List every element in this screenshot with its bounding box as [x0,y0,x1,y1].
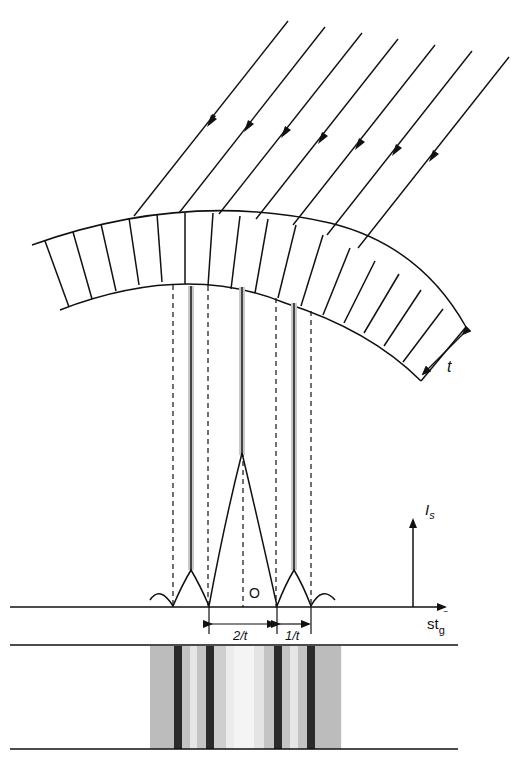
ray-4 [256,39,398,219]
ray-5 [293,45,435,225]
intensity-curve [150,453,335,606]
x-axis-bar: ‾ [443,611,448,622]
ray-2 [179,27,325,213]
diagram-canvas: t Is O stg ‾ 2/t 1/t [0,0,518,762]
origin-label: O [249,585,260,601]
ray-6 [327,51,472,235]
foil-top-surface [32,211,466,327]
thickness-label: t [447,358,452,375]
arrow-down-icon [281,126,291,138]
arrow-down-icon [244,120,254,132]
intensity-axis-label: Is [425,501,435,521]
bend-contour-fringes [150,646,342,749]
x-axis-label: stg [427,615,445,636]
thickness-dimension [423,334,463,374]
spacing-central-label: 2/t [232,628,249,643]
bent-foil [32,211,466,381]
spacing-side-label: 1/t [285,628,301,643]
ray-3 [219,33,362,214]
